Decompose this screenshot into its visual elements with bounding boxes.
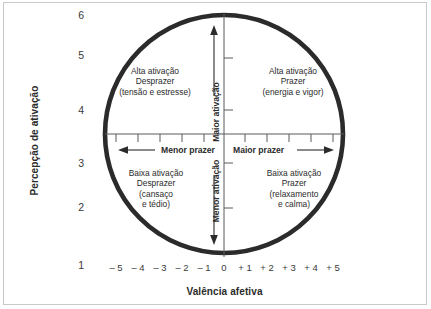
quadrant-top-right-line3: (energia e vigor) [242, 87, 344, 97]
y-tick-2: 2 [62, 201, 84, 213]
y-tick-4: 4 [62, 104, 84, 116]
arrow-left [118, 146, 155, 154]
quadrant-top-right-line1: Alta ativação [242, 66, 344, 76]
quadrant-bottom-left-line4: e tédio) [110, 199, 202, 209]
x-tick-plus-5: + 5 [318, 262, 348, 273]
quadrant-bottom-left-line3: (cansaço [110, 189, 202, 199]
quadrant-top-right-line2: Prazer [242, 76, 344, 86]
y-tick-1: 1 [62, 259, 84, 271]
direction-label-up: Maior ativação [211, 75, 221, 149]
quadrant-bottom-right-line4: e calma) [244, 199, 344, 209]
x-axis-title: Valência afetiva [103, 286, 346, 297]
arrow-right [297, 146, 334, 154]
vertical-axis-ticks [224, 58, 233, 208]
quadrant-top-left-line1: Alta ativação [104, 66, 206, 76]
y-tick-5: 5 [62, 49, 84, 61]
y-tick-3: 3 [62, 157, 84, 169]
quadrant-label-top-right: Alta ativação Prazer (energia e vigor) [242, 66, 344, 97]
quadrant-bottom-right-line2: Prazer [244, 178, 344, 188]
quadrant-bottom-left-line2: Desprazer [110, 178, 202, 188]
quadrant-bottom-left-line1: Baixa ativação [110, 168, 202, 178]
y-axis-title: Percepção de ativação [29, 41, 40, 241]
quadrant-bottom-right-line1: Baixa ativação [244, 168, 344, 178]
quadrant-label-top-left: Alta ativação Desprazer (tensão e estres… [104, 66, 206, 97]
quadrant-top-left-line3: (tensão e estresse) [104, 87, 206, 97]
direction-label-down: Menor ativação [211, 154, 221, 228]
quadrant-top-left-line2: Desprazer [104, 76, 206, 86]
y-tick-6: 6 [62, 9, 84, 21]
direction-label-right: Maior prazer [233, 145, 284, 155]
quadrant-label-bottom-left: Baixa ativação Desprazer (cansaço e tédi… [110, 168, 202, 210]
direction-label-left: Menor prazer [161, 145, 215, 155]
quadrant-label-bottom-right: Baixa ativação Prazer (relaxamento e cal… [244, 168, 344, 210]
circumplex-affect-figure: Percepção de ativação 6 5 4 3 2 1 – 5 – … [0, 0, 431, 309]
quadrant-bottom-right-line3: (relaxamento [244, 189, 344, 199]
